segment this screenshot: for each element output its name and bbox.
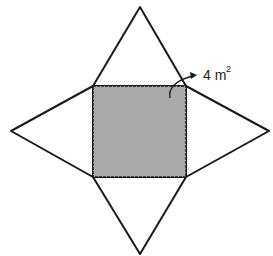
- pyramid-net-diagram: 4 m 2: [0, 0, 273, 256]
- right-triangle: [186, 86, 269, 177]
- area-label-exponent: 2: [226, 64, 231, 74]
- left-triangle: [11, 86, 93, 177]
- arrowhead-icon: [190, 72, 197, 79]
- top-triangle: [93, 7, 186, 86]
- square-base: [93, 86, 186, 177]
- area-label: 4 m: [203, 67, 226, 83]
- bottom-triangle: [93, 177, 186, 254]
